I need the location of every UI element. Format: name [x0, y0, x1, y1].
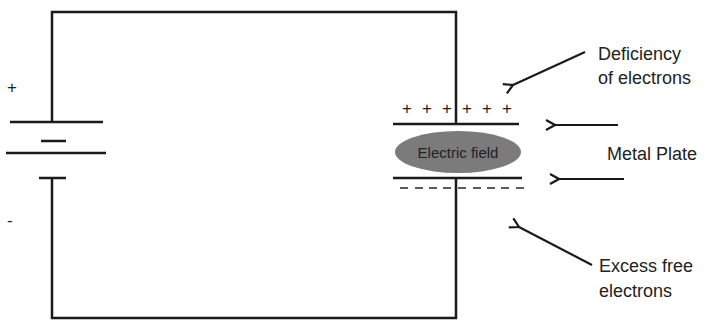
- deficiency-arrow-icon: [513, 52, 585, 85]
- top-wire: [52, 12, 456, 124]
- capacitor-symbol: Electric field: [393, 124, 522, 178]
- plus-charge: +: [442, 99, 452, 118]
- metal-plate-label: Metal Plate: [607, 144, 697, 164]
- battery-positive-label: +: [7, 78, 17, 97]
- excess-label-line2: electrons: [599, 281, 672, 301]
- excess-arrow-icon: [519, 227, 592, 265]
- plus-charge: +: [422, 99, 432, 118]
- deficiency-label-line2: of electrons: [598, 68, 691, 88]
- deficiency-label-line1: Deficiency: [598, 44, 681, 64]
- circuit-wires: [52, 12, 456, 318]
- bottom-wire: [52, 178, 456, 318]
- plus-charge: +: [502, 99, 512, 118]
- plus-charge: +: [402, 99, 412, 118]
- electric-field-label: Electric field: [418, 144, 499, 161]
- plus-charge: +: [482, 99, 492, 118]
- battery-negative-label: -: [7, 211, 13, 230]
- plus-charge: +: [462, 99, 472, 118]
- capacitor-circuit-diagram: + - Electric field + + + + + + Deficienc…: [0, 0, 728, 325]
- excess-label-line1: Excess free: [599, 256, 693, 276]
- battery-symbol: [6, 122, 106, 178]
